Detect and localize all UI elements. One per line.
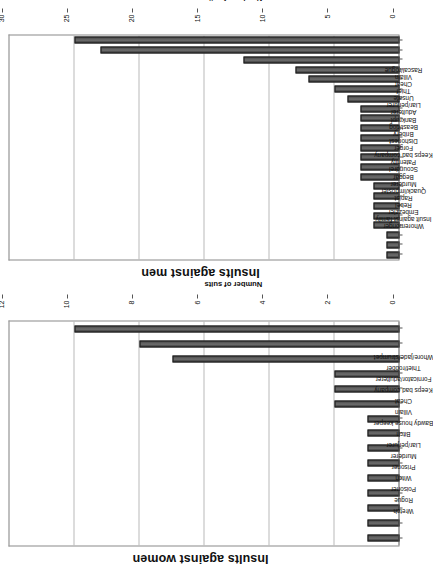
bar-item: [9, 132, 399, 142]
bar-item: [9, 426, 399, 441]
value-tick: 4: [258, 300, 265, 304]
value-tick: 0: [389, 300, 396, 304]
bar-item: [9, 142, 399, 152]
category-label-text: Fornicator/adulterer: [375, 375, 431, 382]
value-axis-title-men: Number of suits: [204, 0, 262, 3]
bar: [386, 251, 399, 258]
category-label-text: Bribery: [393, 130, 413, 137]
category-label-text: Paternity: [390, 158, 415, 165]
bar-item: [9, 162, 399, 172]
bar-item: [9, 45, 399, 55]
bar: [386, 241, 399, 248]
value-axis-title-women: Number of suits: [204, 280, 262, 289]
bar-item: [9, 94, 399, 104]
category-label-text: Wretch: [393, 507, 413, 514]
category-label-text: Cheat: [394, 80, 411, 87]
bar-item: [9, 210, 399, 220]
bar-item: [9, 530, 399, 545]
category-label-text: Whore/jade/strumpet: [373, 353, 432, 360]
category-label-text: Scoundrel: [389, 165, 418, 172]
bar-item: [9, 440, 399, 455]
category-label-text: Embezzler: [388, 208, 418, 215]
category-label-text: Keeps bad company: [374, 151, 432, 158]
value-tick: 15: [193, 14, 200, 22]
value-tick: 25: [63, 14, 70, 22]
value-tick: 0: [389, 14, 396, 18]
value-tick: 20: [128, 14, 135, 22]
chart-insults-against-men: Insults against men WhoremongerInsult ag…: [0, 0, 399, 286]
bar-series-women: [9, 321, 399, 545]
category-label-text: Murderer: [390, 180, 416, 187]
bar-item: [9, 74, 399, 84]
bar-item: [9, 191, 399, 201]
bar-item: [9, 55, 399, 65]
bar-item: [9, 152, 399, 162]
bar: [367, 474, 399, 481]
bar-item: [9, 230, 399, 240]
bar: [139, 340, 399, 347]
bar-item: [9, 500, 399, 515]
category-label-text: Poisoner: [390, 485, 415, 492]
value-axis-women: Number of suits 024681012: [8, 286, 399, 320]
category-label-text: Unsafe: [393, 94, 413, 101]
value-tick: 8: [128, 300, 135, 304]
category-label-text: Adulterer: [390, 108, 416, 115]
value-axis-men: Number of suits 051015202530: [8, 0, 399, 34]
bar-item: [9, 396, 399, 411]
bar-item: [9, 113, 399, 123]
value-tick: 10: [258, 14, 265, 22]
chart-title-men-text: Insults against men: [140, 266, 259, 280]
bar-item: [9, 64, 399, 74]
category-label-text: Thief/robber: [386, 364, 420, 371]
bar-item: [9, 470, 399, 485]
bar: [367, 519, 399, 526]
bar: [367, 429, 399, 436]
chart-title-women: Insults against women: [0, 548, 399, 570]
bar: [334, 85, 399, 92]
bar-item: [9, 381, 399, 396]
category-label-text: Cheat: [394, 397, 411, 404]
bar: [74, 36, 399, 43]
bar: [308, 75, 399, 82]
category-label-text: Rascal/rogue: [384, 66, 422, 73]
category-label-text: Prisoner: [391, 463, 415, 470]
bar: [100, 46, 399, 53]
bar-item: [9, 485, 399, 500]
bar-item: [9, 321, 399, 336]
value-tick: 30: [0, 14, 5, 22]
category-label-text: Liar/perjurer: [386, 441, 420, 448]
bar-item: [9, 240, 399, 250]
bar-item: [9, 515, 399, 530]
category-label-text: Keeps bad company: [374, 386, 432, 393]
bar-item: [9, 336, 399, 351]
category-label-text: Beast/dog: [389, 123, 418, 130]
chart-title-men: Insults against men: [0, 262, 399, 284]
bar-item: [9, 455, 399, 470]
bar-item: [9, 123, 399, 133]
category-label-text: Quack/imposter: [381, 187, 426, 194]
category-label-text: Forger: [394, 144, 413, 151]
category-label-text: Murderer: [390, 452, 416, 459]
bar-item: [9, 220, 399, 230]
bar: [334, 400, 399, 407]
bar-series-men: [9, 35, 399, 259]
bar-item: [9, 351, 399, 366]
value-tick: 5: [323, 14, 330, 18]
bar: [243, 56, 399, 63]
value-tick: 6: [193, 300, 200, 304]
chart-title-women-text: Insults against women: [131, 552, 267, 566]
chart-insults-against-women: Insults against women WretchRoguePoisone…: [0, 286, 399, 572]
bar-item: [9, 35, 399, 45]
category-label-text: Beggar: [393, 173, 414, 180]
category-label-text: Insult against family: [375, 215, 431, 222]
bar-item: [9, 249, 399, 259]
category-label-text: Whoremonger: [383, 222, 424, 229]
chart-canvas-men: Insults against men WhoremongerInsult ag…: [0, 0, 399, 286]
bar: [74, 325, 399, 332]
category-label-text: Rebel: [395, 201, 412, 208]
value-tick: 12: [0, 300, 5, 308]
value-tick: 2: [323, 300, 330, 304]
category-label-text: Dishonest: [389, 137, 417, 144]
category-label-text: Bankrupt: [390, 116, 416, 123]
category-label-text: Rapist: [394, 194, 412, 201]
